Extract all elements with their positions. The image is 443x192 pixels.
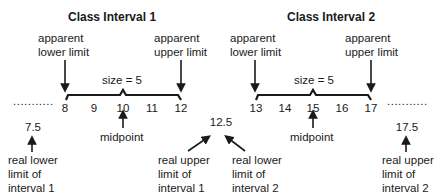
real-lower-limit-1-value: 7.5 xyxy=(21,120,45,134)
score-13: 13 xyxy=(244,101,268,115)
apparent-upper-limit-2-label: apparent upper limit xyxy=(345,31,398,59)
real-upper-limit-2-value: 17.5 xyxy=(395,120,419,134)
size-label-1: size = 5 xyxy=(102,73,142,87)
score-12: 12 xyxy=(169,101,193,115)
interval-1-title: Class Interval 1 xyxy=(68,10,156,24)
score-17: 17 xyxy=(359,101,383,115)
real-upper-limit-2-label: real upper limit of interval 2 xyxy=(382,153,434,192)
score-9: 9 xyxy=(82,101,106,115)
score-10: 10 xyxy=(111,101,135,115)
brace-2 xyxy=(256,90,371,100)
apparent-lower-limit-1-label: apparent lower limit xyxy=(38,31,89,59)
score-14: 14 xyxy=(273,101,297,115)
midpoint-1-label: midpoint xyxy=(100,130,143,144)
apparent-lower-limit-2-label: apparent lower limit xyxy=(230,31,281,59)
arrow-real-lower-2 xyxy=(228,138,245,151)
real-upper-limit-1-label: real upper limit of interval 1 xyxy=(158,153,210,192)
real-lower-limit-1-label: real lower limit of interval 1 xyxy=(8,153,58,192)
ellipsis-right: ........... xyxy=(387,94,428,108)
score-11: 11 xyxy=(140,101,164,115)
size-label-2: size = 5 xyxy=(294,73,334,87)
brace-1 xyxy=(66,90,181,100)
shared-boundary-value: 12.5 xyxy=(206,115,236,129)
score-15: 15 xyxy=(301,101,325,115)
interval-2-title: Class Interval 2 xyxy=(287,10,375,24)
ellipsis-left: ........... xyxy=(13,94,54,108)
midpoint-2-label: midpoint xyxy=(290,130,333,144)
score-16: 16 xyxy=(330,101,354,115)
diagram-graphics xyxy=(0,0,443,192)
arrow-real-upper-1 xyxy=(188,138,207,151)
score-8: 8 xyxy=(53,101,77,115)
apparent-upper-limit-1-label: apparent upper limit xyxy=(154,31,207,59)
real-lower-limit-2-label: real lower limit of interval 2 xyxy=(232,153,282,192)
